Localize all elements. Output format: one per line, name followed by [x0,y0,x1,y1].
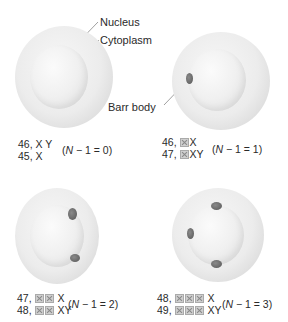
karyotype-caption: 46, X 47, XY [162,136,204,160]
karyotype-caption: 48, X 49, XY [157,292,221,316]
cytoplasm-label: Cytoplasm [100,34,152,47]
equation: (N − 1 = 2) [68,298,118,310]
nucleus [188,205,244,265]
karyotype-caption: 47, X 48, XY [17,292,71,316]
equation: (N − 1 = 0) [62,144,112,156]
barr-body [211,260,222,268]
barr-body [211,202,222,210]
nucleus [30,45,88,109]
barr-body-label: Barr body [108,101,156,114]
barr-body [187,228,194,239]
barr-body [70,254,80,262]
equation: (N − 1 = 1) [212,143,262,155]
karyotype-caption: 46, X Y 45, X [18,138,52,162]
nucleus [188,49,246,111]
nucleus-label: Nucleus [100,16,140,29]
barr-body [68,208,77,220]
equation: (N − 1 = 3) [222,298,272,310]
barr-body [186,73,193,84]
